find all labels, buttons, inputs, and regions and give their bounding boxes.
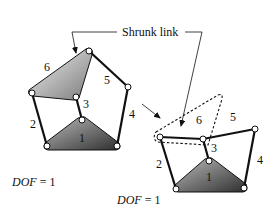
callout: Shrunk link	[72, 25, 202, 126]
right-mechanism: 6 5 3 4 2 1 DOF = 1	[116, 95, 263, 208]
right-label-3: 3	[211, 141, 217, 155]
right-link-4	[244, 129, 255, 188]
callout-label: Shrunk link	[122, 25, 178, 39]
left-label-6: 6	[44, 60, 50, 74]
left-label-3: 3	[83, 97, 89, 111]
right-dof-label: DOF = 1	[116, 193, 160, 207]
callout-arrow-left	[72, 32, 117, 53]
left-mechanism: 6 5 3 4 2 1 DOF = 1	[11, 48, 135, 189]
left-label-5: 5	[104, 73, 110, 87]
left-label-1: 1	[79, 131, 85, 145]
right-link-2	[160, 137, 176, 189]
transition-arrow	[142, 104, 160, 118]
right-label-5: 5	[230, 110, 236, 124]
left-link-3	[76, 97, 82, 120]
right-link-5	[203, 129, 255, 139]
left-label-2: 2	[30, 117, 36, 131]
mechanism-diagram: Shrunk link 6 5 3 4 2 1 DOF = 1	[0, 0, 278, 216]
right-link-6-shrunk	[160, 137, 203, 139]
left-link-4	[117, 87, 128, 146]
right-label-1: 1	[206, 170, 212, 184]
left-link-6	[29, 48, 93, 100]
callout-arrow-right	[181, 32, 202, 126]
right-label-2: 2	[156, 157, 162, 171]
left-dof-label: DOF = 1	[11, 175, 55, 189]
right-label-4: 4	[257, 153, 263, 167]
left-label-4: 4	[129, 107, 135, 121]
right-label-6: 6	[196, 113, 202, 127]
